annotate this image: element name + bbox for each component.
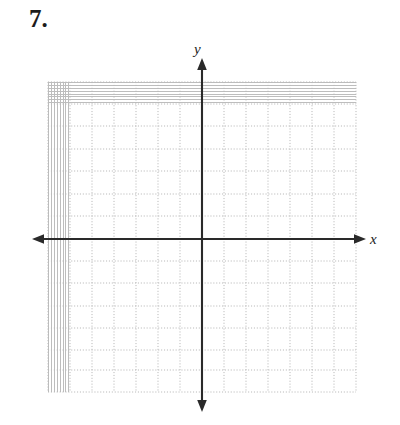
x-axis-arrow-left-icon [32, 234, 44, 244]
y-axis-arrow-down-icon [197, 400, 207, 412]
axes-group [32, 58, 366, 412]
y-axis-label: y [192, 41, 201, 57]
plot-overlay: y x [0, 0, 400, 425]
y-axis-arrow-up-icon [197, 58, 207, 70]
x-axis-label: x [369, 231, 377, 247]
coordinate-plane-figure: 7. [0, 0, 400, 425]
x-axis-arrow-right-icon [354, 234, 366, 244]
